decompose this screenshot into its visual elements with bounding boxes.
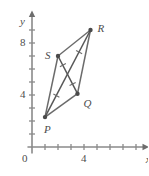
point-label-s: S	[45, 50, 51, 61]
x-tick-label-4: 4	[81, 153, 87, 164]
point-label-r: R	[98, 23, 105, 34]
y-tick-label-8: 8	[20, 37, 26, 48]
coordinate-plane-figure: PQRSyx0448	[0, 0, 148, 176]
vertex-dot-r	[88, 28, 92, 32]
x-axis-label: x	[146, 154, 148, 165]
point-label-p: P	[44, 124, 51, 135]
x-axis-arrow	[143, 144, 149, 150]
point-label-q: Q	[84, 98, 92, 109]
vertex-dot-s	[56, 54, 60, 58]
quad-side-sp	[45, 56, 58, 117]
y-axis-arrow	[29, 11, 35, 18]
vertex-dot-q	[75, 92, 79, 96]
y-axis-label: y	[20, 16, 25, 27]
origin-label: 0	[22, 153, 28, 164]
y-tick-label-4: 4	[20, 89, 26, 100]
vertex-dot-p	[43, 115, 47, 119]
